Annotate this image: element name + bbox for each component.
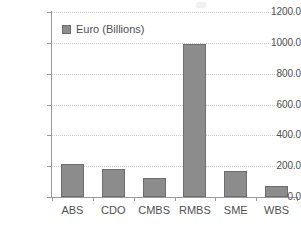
x-axis-tick-label: WBS — [264, 204, 289, 217]
y-axis-tick-label: 600.0 — [257, 100, 301, 110]
y-axis-tick-label: 800.0 — [257, 69, 301, 79]
legend-label: Euro (Billions) — [76, 23, 144, 35]
x-axis-tick — [134, 197, 135, 201]
x-axis-tick-label: CDO — [101, 204, 125, 217]
x-axis-tick-label: SME — [224, 204, 248, 217]
x-axis-tick — [175, 197, 176, 201]
x-axis-tick — [215, 197, 216, 201]
y-axis-tick-label: 1000.0 — [257, 38, 301, 48]
y-axis-tick-label: 0.0 — [257, 192, 301, 202]
x-axis-tick — [93, 197, 94, 201]
scan-artifact — [196, 2, 206, 8]
bar-chart: ABSCDOCMBSRMBSSMEWBS Euro (Billions) 0.0… — [0, 0, 301, 239]
bar-abs — [61, 164, 84, 197]
bar-rmbs — [183, 44, 206, 197]
y-axis-tick-label: 1200.0 — [257, 7, 301, 17]
x-axis-tick-label: ABS — [61, 204, 83, 217]
x-axis-tick — [52, 197, 53, 201]
bar-cmbs — [143, 178, 166, 197]
legend-swatch-icon — [62, 25, 71, 34]
y-axis-tick-label: 200.0 — [257, 161, 301, 171]
bar-cdo — [102, 169, 125, 197]
y-axis-tick-label: 400.0 — [257, 130, 301, 140]
x-axis-tick-label: RMBS — [179, 204, 211, 217]
x-axis-tick-label: CMBS — [138, 204, 170, 217]
bar-sme — [224, 171, 247, 197]
chart-legend: Euro (Billions) — [62, 23, 144, 35]
